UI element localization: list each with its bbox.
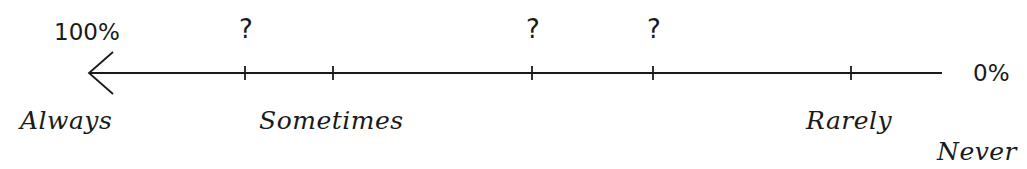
question-mark-label: ? (526, 16, 540, 42)
right-end-label-0-percent: 0% (973, 62, 1010, 85)
frequency-label-never: Never (937, 139, 1017, 164)
question-mark-label: ? (647, 16, 661, 42)
frequency-label-sometimes: Sometimes (259, 108, 404, 133)
frequency-label-always: Always (20, 108, 112, 133)
scale-line-graphic (0, 0, 1027, 169)
frequency-scale-diagram: 100% 0% ? ? ? Always Sometimes Rarely Ne… (0, 0, 1027, 169)
question-mark-label: ? (239, 16, 253, 42)
left-end-label-100-percent: 100% (54, 21, 120, 44)
frequency-label-rarely: Rarely (806, 108, 892, 133)
